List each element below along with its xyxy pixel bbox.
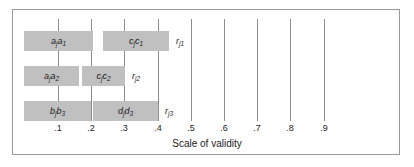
tick-label-0.9: .9	[314, 123, 334, 133]
bar-segment-cj-c1[interactable]: cjc1	[103, 31, 169, 51]
tick-label-0.5: .5	[181, 123, 201, 133]
bar-row-rj2: aja2 cjc2 rj2	[13, 66, 401, 86]
tick-label-0.4: .4	[148, 123, 168, 133]
tick-label-0.3: .3	[114, 123, 134, 133]
bar-row-rj3: bjb3 djd3 rj3	[13, 101, 401, 121]
bar-segment-bj-b3[interactable]: bjb3	[24, 101, 91, 121]
bar-segment-label-aj-a2: aja2	[24, 66, 79, 86]
bar-row-rj1: aja1 cjc1 rj1	[13, 31, 401, 51]
row-label-rj2: rj2	[132, 66, 140, 86]
chart-frame: aja1 cjc1 rj1 aja2 cjc2 rj2	[12, 9, 400, 155]
bar-segment-aj-a2[interactable]: aja2	[24, 66, 79, 86]
bar-segment-label-bj-b3: bjb3	[24, 101, 91, 121]
bar-segment-label-cj-c2: cjc2	[82, 66, 125, 86]
chart-figure: aja1 cjc1 rj1 aja2 cjc2 rj2	[0, 0, 414, 167]
tick-label-0.8: .8	[280, 123, 300, 133]
bar-segment-dj-d3[interactable]: djd3	[93, 101, 158, 121]
plot-area: aja1 cjc1 rj1 aja2 cjc2 rj2	[13, 10, 401, 156]
bar-segment-label-cj-c1: cjc1	[103, 31, 169, 51]
x-axis-title: Scale of validity	[13, 138, 401, 149]
bar-segment-label-aj-a1: aja1	[24, 31, 93, 51]
bar-segment-label-dj-d3: djd3	[93, 101, 158, 121]
tick-label-0.7: .7	[247, 123, 267, 133]
tick-label-0.6: .6	[214, 123, 234, 133]
row-label-rj1: rj1	[176, 31, 184, 51]
bar-segment-cj-c2[interactable]: cjc2	[82, 66, 125, 86]
tick-label-0.1: .1	[48, 123, 68, 133]
bar-segment-aj-a1[interactable]: aja1	[24, 31, 93, 51]
tick-label-0.2: .2	[81, 123, 101, 133]
row-label-rj3: rj3	[165, 101, 173, 121]
